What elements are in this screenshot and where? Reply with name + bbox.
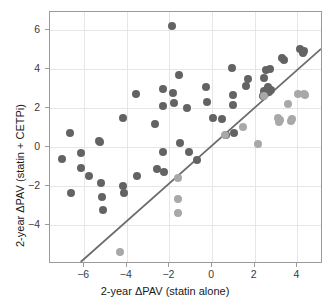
data-point-dark <box>228 64 236 72</box>
x-tick-mark <box>168 263 169 267</box>
data-point-dark <box>185 148 193 156</box>
data-point-dark <box>119 114 127 122</box>
data-point-dark <box>151 120 159 128</box>
x-axis-label: 2-year ΔPAV (statin alone) <box>0 285 330 297</box>
x-tick-label: −4 <box>120 268 132 280</box>
y-axis-label: 2-year ΔPAV (statin + CETPi) <box>14 104 26 247</box>
data-point-light <box>174 209 182 217</box>
x-tick-label: 0 <box>208 268 214 280</box>
data-point-dark <box>266 65 274 73</box>
y-tick-label: 0 <box>34 140 40 152</box>
data-point-light <box>284 100 292 108</box>
y-tick-mark <box>45 146 49 147</box>
data-point-light <box>301 91 309 99</box>
y-tick-mark <box>45 185 49 186</box>
data-point-dark <box>67 189 75 197</box>
data-point-light <box>221 131 229 139</box>
y-tick-mark <box>45 68 49 69</box>
data-point-dark <box>267 86 275 94</box>
x-tick-mark <box>126 263 127 267</box>
y-tick-mark <box>45 107 49 108</box>
reference-line <box>50 12 321 262</box>
x-tick-label: −2 <box>162 268 174 280</box>
x-tick-mark <box>254 263 255 267</box>
data-point-dark <box>218 115 226 123</box>
y-tick-label: 4 <box>34 62 40 74</box>
data-point-light <box>174 195 182 203</box>
data-point-dark <box>202 83 210 91</box>
x-tick-label: 4 <box>293 268 299 280</box>
data-point-dark <box>169 89 177 97</box>
y-tick-label: −2 <box>28 179 40 191</box>
data-point-dark <box>168 22 176 30</box>
data-point-dark <box>203 98 211 106</box>
data-point-dark <box>242 82 250 90</box>
x-tick-mark <box>296 263 297 267</box>
x-tick-label: −6 <box>77 268 89 280</box>
data-point-dark <box>77 149 85 157</box>
y-tick-label: 2 <box>34 101 40 113</box>
y-tick-label: −4 <box>28 218 40 230</box>
y-tick-mark <box>45 29 49 30</box>
data-point-dark <box>209 114 217 122</box>
y-tick-mark <box>45 224 49 225</box>
data-point-dark <box>159 102 167 110</box>
data-point-dark <box>120 189 128 197</box>
plot-clip <box>50 12 321 262</box>
x-tick-label: 2 <box>251 268 257 280</box>
data-point-dark <box>98 193 106 201</box>
scatter-plot-figure: −6−4−2024−4−20246 2-year ΔPAV (statin al… <box>0 0 330 307</box>
data-point-dark <box>183 104 191 112</box>
plot-area <box>49 11 322 263</box>
y-tick-label: 6 <box>34 23 40 35</box>
data-point-dark <box>300 47 308 55</box>
data-point-light <box>239 123 247 131</box>
data-point-dark <box>280 56 288 64</box>
data-point-dark <box>159 148 167 156</box>
x-tick-mark <box>211 263 212 267</box>
x-tick-mark <box>83 263 84 267</box>
